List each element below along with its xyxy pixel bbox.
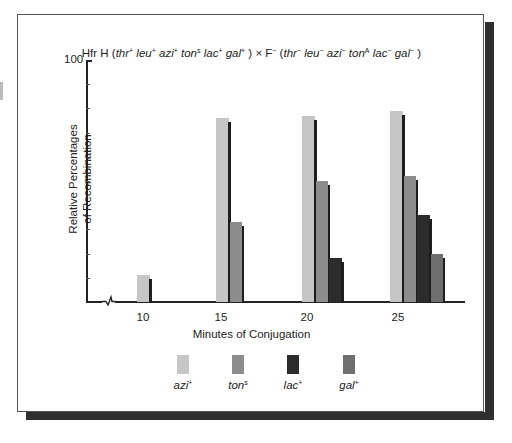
x-axis-left-segment	[86, 301, 102, 303]
recipient-gene-sup: −	[410, 47, 414, 54]
donor-gene-sup: s	[197, 47, 201, 54]
x-axis-label: Minutes of Conjugation	[18, 328, 485, 340]
recipient-gene-sup: −	[387, 47, 391, 54]
bar-lac-25	[417, 215, 430, 302]
bar-ton-15	[230, 222, 243, 302]
axis-break-icon	[102, 294, 116, 306]
donor-gene: thr	[116, 47, 129, 59]
title-cross: ) × F	[245, 47, 272, 59]
recipient-gene: azi	[327, 47, 342, 59]
bar-azi-25	[390, 111, 403, 302]
legend-swatch-lac	[287, 355, 299, 374]
donor-gene-sup: +	[174, 47, 178, 54]
legend-label-azi: azi+	[153, 379, 213, 391]
donor-gene: azi	[159, 47, 174, 59]
bar-shadow-edge	[341, 262, 344, 302]
bar-azi-10	[137, 275, 150, 302]
title-prefix: Hfr H (	[82, 47, 116, 59]
x-tick-label: 25	[378, 311, 418, 323]
bar-shadow-edge	[242, 226, 245, 302]
donor-gene-sup: +	[152, 47, 156, 54]
bar-azi-20	[302, 116, 315, 302]
y-axis-label-line-1: Relative Percentages	[66, 109, 80, 249]
recipient-gene-sup: A	[365, 47, 370, 54]
bar-azi-15	[216, 118, 229, 302]
y-tick	[86, 84, 90, 85]
x-tick-label: 20	[287, 311, 327, 323]
x-tick-label: 15	[201, 311, 241, 323]
bar-ton-25	[404, 176, 417, 302]
title-suffix: )	[417, 47, 421, 59]
y-axis-label-line-2: of Recombination	[80, 109, 94, 249]
y-tick	[86, 278, 90, 279]
x-tick-label: 10	[123, 311, 163, 323]
legend-swatch-azi	[177, 355, 189, 374]
recipient-gene: gal	[395, 47, 410, 59]
recipient-gene: leu	[304, 47, 319, 59]
recipient-gene: lac	[373, 47, 388, 59]
legend-label-lac: lac+	[263, 379, 323, 391]
donor-gene: leu	[136, 47, 151, 59]
y-axis-label: Relative Percentages of Recombination	[66, 109, 94, 249]
donor-gene-sup: +	[218, 47, 222, 54]
recipient-gene-sup: −	[342, 47, 346, 54]
donor-gene: ton	[181, 47, 197, 59]
bar-ton-20	[316, 181, 329, 302]
y-axis-max-label: 100	[64, 53, 83, 65]
edge-artifact	[0, 82, 3, 100]
legend-label-ton: tons	[208, 379, 268, 391]
bar-lac-20	[329, 258, 342, 302]
donor-gene: lac	[204, 47, 219, 59]
bar-shadow-edge	[443, 258, 446, 302]
frame-shadow-bottom	[26, 412, 494, 420]
recipient-gene-sup: −	[320, 47, 324, 54]
y-axis-top-tick	[86, 60, 92, 62]
donor-gene: gal	[226, 47, 241, 59]
bar-shadow-edge	[149, 279, 152, 302]
legend-swatch-gal	[343, 355, 355, 374]
chart-frame: Hfr H (thr+ leu+ azi+ tons lac+ gal+ ) ×…	[17, 14, 484, 412]
recipient-gene: ton	[349, 47, 365, 59]
bar-gal-25	[431, 254, 444, 302]
donor-gene-sup: +	[129, 47, 133, 54]
y-tick	[86, 254, 90, 255]
legend-swatch-ton	[232, 355, 244, 374]
recipient-gene: thr	[283, 47, 296, 59]
chart-title: Hfr H (thr+ leu+ azi+ tons lac+ gal+ ) ×…	[18, 47, 485, 59]
recipient-gene-sup: −	[297, 47, 301, 54]
frame-shadow-right	[485, 22, 494, 420]
legend-label-gal: gal+	[319, 379, 379, 391]
